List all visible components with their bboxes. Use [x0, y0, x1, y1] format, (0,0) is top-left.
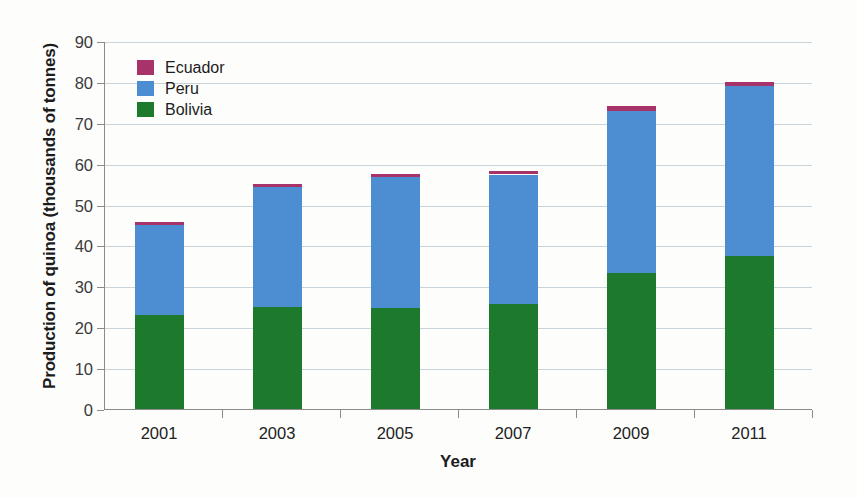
bar-segment-ecuador[interactable]: [135, 222, 184, 224]
bar-segment-peru[interactable]: [607, 111, 656, 273]
y-axis-line: [104, 42, 105, 410]
legend-swatch-bolivia: [137, 102, 154, 117]
gridline: [104, 246, 812, 247]
bar-segment-bolivia[interactable]: [489, 304, 538, 410]
chart-legend: EcuadorPeruBolivia: [137, 57, 225, 120]
gridline: [104, 287, 812, 288]
bar-segment-bolivia[interactable]: [253, 307, 302, 410]
x-axis-title: Year: [104, 452, 812, 472]
bar-segment-bolivia[interactable]: [607, 273, 656, 410]
legend-label: Peru: [165, 80, 199, 98]
gridline: [104, 206, 812, 207]
y-axis-title: Production of quinoa (thousands of tonne…: [40, 6, 60, 426]
bar-segment-ecuador[interactable]: [725, 82, 774, 86]
bar-segment-bolivia[interactable]: [135, 315, 184, 410]
x-tick-label: 2007: [495, 424, 532, 443]
x-tick-mark: [576, 410, 577, 418]
x-axis-line: [104, 409, 812, 410]
bar-segment-peru[interactable]: [489, 175, 538, 304]
legend-item[interactable]: Peru: [137, 78, 225, 99]
bar-segment-peru[interactable]: [725, 86, 774, 256]
y-tick-label: 10: [75, 360, 93, 379]
x-tick-mark: [458, 410, 459, 418]
y-tick-mark: [97, 42, 104, 43]
y-tick-label: 70: [75, 114, 93, 133]
x-tick-label: 2003: [259, 424, 296, 443]
x-tick-label: 2001: [141, 424, 178, 443]
bar-stack[interactable]: [371, 42, 420, 410]
legend-item[interactable]: Bolivia: [137, 99, 225, 120]
legend-swatch-ecuador: [137, 60, 154, 75]
gridline: [104, 328, 812, 329]
legend-label: Ecuador: [165, 59, 225, 77]
bar-segment-ecuador[interactable]: [607, 106, 656, 111]
y-tick-mark: [97, 410, 104, 411]
chart-page: Production of quinoa (thousands of tonne…: [0, 0, 857, 498]
y-tick-mark: [97, 165, 104, 166]
y-tick-label: 50: [75, 196, 93, 215]
y-tick-label: 80: [75, 73, 93, 92]
y-tick-label: 30: [75, 278, 93, 297]
x-tick-mark: [340, 410, 341, 418]
y-tick-label: 20: [75, 319, 93, 338]
bar-stack[interactable]: [725, 42, 774, 410]
x-tick-mark: [222, 410, 223, 418]
y-tick-label: 0: [84, 401, 93, 420]
bar-segment-ecuador[interactable]: [371, 174, 420, 177]
bar-stack[interactable]: [253, 42, 302, 410]
bar-stack[interactable]: [607, 42, 656, 410]
y-tick-mark: [97, 246, 104, 247]
legend-item[interactable]: Ecuador: [137, 57, 225, 78]
bar-stack[interactable]: [489, 42, 538, 410]
x-tick-mark: [694, 410, 695, 418]
y-tick-label: 90: [75, 33, 93, 52]
x-tick-label: 2011: [731, 424, 766, 443]
x-tick-label: 2005: [377, 424, 414, 443]
bar-segment-bolivia[interactable]: [725, 256, 774, 410]
bar-segment-ecuador[interactable]: [489, 171, 538, 175]
x-tick-mark: [812, 410, 813, 418]
y-tick-mark: [97, 328, 104, 329]
y-tick-mark: [97, 369, 104, 370]
gridline: [104, 124, 812, 125]
y-tick-mark: [97, 83, 104, 84]
bar-segment-bolivia[interactable]: [371, 308, 420, 410]
legend-label: Bolivia: [165, 101, 212, 119]
y-tick-label: 60: [75, 155, 93, 174]
bar-segment-peru[interactable]: [371, 177, 420, 308]
y-tick-mark: [97, 206, 104, 207]
y-tick-mark: [97, 124, 104, 125]
bar-segment-peru[interactable]: [135, 225, 184, 315]
legend-swatch-peru: [137, 81, 154, 96]
bar-segment-ecuador[interactable]: [253, 184, 302, 187]
gridline: [104, 369, 812, 370]
gridline: [104, 165, 812, 166]
gridline: [104, 42, 812, 43]
y-tick-mark: [97, 287, 104, 288]
x-tick-label: 2009: [613, 424, 650, 443]
y-tick-label: 40: [75, 237, 93, 256]
bar-segment-peru[interactable]: [253, 187, 302, 307]
